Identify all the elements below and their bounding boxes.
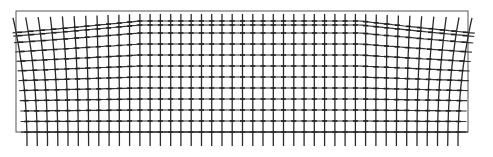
grid-column-line [438,17,447,146]
grid-column-line [427,17,434,146]
grid-column-line [50,17,57,146]
grid-row-line [14,33,473,43]
grid-row-line [17,55,471,62]
deformed-grid-figure: Deformed rectangular grid (vector/mesh d… [0,0,493,157]
figure-description: Deformed rectangular grid (vector/mesh d… [0,0,1,1]
grid-row-line [13,21,475,33]
mesh-plot [0,0,493,157]
grid-column-line [38,17,47,146]
grid-column-line [396,15,398,146]
grid-column-line [62,16,68,146]
grid-column-line [86,16,89,146]
grid-row-line [15,44,472,52]
grid-column-line [448,17,459,146]
grid-column-line [417,16,422,146]
grid-column-line [13,18,27,146]
grid-column-line [386,15,387,146]
grid-column-line [458,18,472,146]
grid-column-line [74,16,78,146]
grid-column-line [108,15,109,146]
grid-column-line [26,17,38,146]
grid-column-line [407,16,410,146]
grid-column-line [97,15,99,146]
